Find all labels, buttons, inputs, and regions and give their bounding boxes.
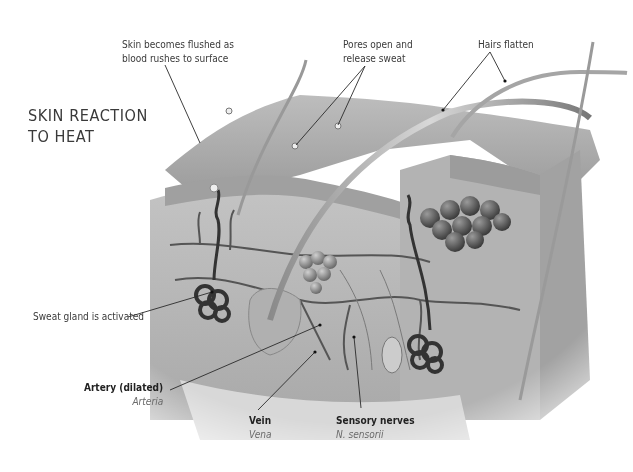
label-sensory-nerves-latin: N. sensorii (336, 427, 415, 441)
label-sweat-gland-text: Sweat gland is activated (33, 309, 144, 323)
label-artery-name: Artery (dilated) (84, 380, 163, 394)
label-hairs-flatten: Hairs flatten (478, 37, 534, 51)
label-sensory-nerves-name: Sensory nerves (336, 413, 415, 427)
title-line-2: TO HEAT (28, 126, 148, 147)
label-artery-latin: Arteria (84, 394, 163, 408)
title-line-1: SKIN REACTION (28, 105, 148, 126)
label-pores: Pores open and release sweat (343, 37, 413, 65)
label-vein-latin: Vena (249, 427, 271, 441)
label-sensory-nerves: Sensory nerves N. sensorii (336, 413, 415, 441)
label-vein-name: Vein (249, 413, 271, 427)
label-skin-flushed-line2: blood rushes to surface (122, 51, 234, 65)
illustration-body (150, 95, 600, 440)
label-sweat-gland: Sweat gland is activated (33, 309, 144, 323)
skin-diagram: SKIN REACTION TO HEAT Skin becomes flush… (0, 0, 633, 472)
label-skin-flushed-line1: Skin becomes flushed as (122, 37, 234, 51)
label-artery: Artery (dilated) Arteria (84, 380, 163, 408)
pacinian-corpuscle (382, 337, 402, 373)
label-vein: Vein Vena (249, 413, 271, 441)
label-hairs-flatten-text: Hairs flatten (478, 37, 534, 51)
leader-flushed (165, 65, 200, 143)
label-pores-line1: Pores open and (343, 37, 413, 51)
leader-hairs-2 (490, 52, 505, 81)
label-skin-flushed: Skin becomes flushed as blood rushes to … (122, 37, 234, 65)
diagram-title: SKIN REACTION TO HEAT (28, 105, 148, 147)
label-pores-line2: release sweat (343, 51, 413, 65)
dermis-right-block (400, 155, 540, 420)
